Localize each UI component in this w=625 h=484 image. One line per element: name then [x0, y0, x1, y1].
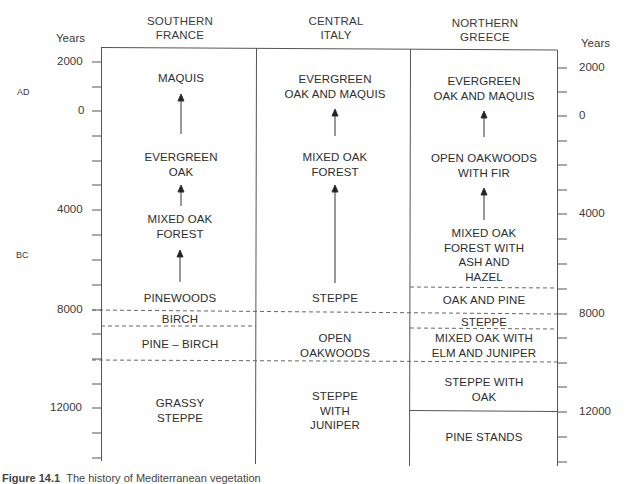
right-axis-title: Years — [581, 37, 610, 49]
zone-label: STEPPE WITH — [411, 375, 557, 390]
zone-label: PINE STANDS — [411, 430, 557, 445]
heading-line: ITALY — [276, 28, 396, 42]
column-divider-1 — [256, 48, 257, 464]
zone-label: EVERGREEN — [411, 74, 557, 89]
right-tick-12000: 12000 — [579, 405, 611, 417]
zone-label: WITH FIR — [411, 166, 557, 181]
zone-greece-pine-stands: PINE STANDS — [411, 430, 557, 445]
arrow-up-icon — [332, 109, 338, 116]
zone-greece-mixed-oak-elm-juniper: MIXED OAK WITH ELM AND JUNIPER — [411, 331, 557, 360]
heading-line: CENTRAL — [276, 14, 396, 28]
zone-label: JUNIPER — [262, 418, 408, 433]
zone-italy-steppe-with-juniper: STEPPE WITH JUNIPER — [262, 389, 408, 433]
boundary-greece-pine-stands — [410, 411, 557, 412]
zone-italy-steppe: STEPPE — [262, 291, 408, 306]
zone-italy-evergreen-oak-maquis: EVERGREEN OAK AND MAQUIS — [262, 72, 408, 101]
column-heading-southern-france: SOUTHERN FRANCE — [120, 14, 240, 42]
zone-label: PINEWOODS — [110, 291, 250, 306]
era-label-bc: BC — [16, 250, 29, 260]
zone-label: STEPPE — [411, 315, 557, 330]
zone-label: EVERGREEN — [262, 72, 408, 87]
zone-greece-mixed-oak-ash-hazel: MIXED OAK FOREST WITH ASH AND HAZEL — [411, 226, 557, 284]
zone-france-pine-birch: PINE – BIRCH — [110, 337, 250, 352]
heading-line: GREECE — [425, 30, 545, 44]
zone-label: ELM AND JUNIPER — [411, 346, 557, 361]
figure-caption: Figure 14.1 The history of Mediterranean… — [2, 472, 261, 484]
zone-label: ASH AND — [411, 255, 557, 270]
zone-greece-steppe: STEPPE — [411, 315, 557, 330]
arrow-up-icon — [178, 94, 184, 101]
zone-label: OPEN OAKWOODS — [411, 151, 557, 166]
zone-label: OAK AND PINE — [411, 293, 557, 308]
left-tick-0: 0 — [78, 104, 84, 116]
arrow-up-icon — [332, 185, 338, 192]
left-axis-ticks — [92, 62, 101, 458]
arrow-up-icon — [481, 188, 487, 195]
zone-label: OAK AND MAQUIS — [411, 89, 557, 104]
figure-caption-label: Figure 14.1 — [2, 472, 60, 484]
zone-label: OPEN — [262, 331, 408, 346]
left-tick-8000: 8000 — [57, 303, 83, 315]
zone-france-maquis: MAQUIS — [111, 71, 251, 86]
boundary-oak-pine — [410, 287, 557, 288]
zone-label: MIXED OAK — [411, 226, 557, 241]
zone-label: EVERGREEN — [111, 150, 251, 165]
zone-greece-oak-and-pine: OAK AND PINE — [411, 293, 557, 308]
heading-line: FRANCE — [120, 28, 240, 42]
zone-label: OAK AND MAQUIS — [262, 87, 408, 102]
column-heading-central-italy: CENTRAL ITALY — [276, 14, 396, 42]
column-heading-northern-greece: NORTHERN GREECE — [425, 16, 545, 44]
right-tick-0: 0 — [579, 109, 585, 121]
zone-label: STEPPE — [262, 291, 408, 306]
zone-label: STEPPE — [110, 411, 250, 426]
left-tick-12000: 12000 — [50, 401, 82, 413]
heading-line: NORTHERN — [425, 16, 545, 30]
zone-label: STEPPE — [262, 389, 408, 404]
zone-label: GRASSY — [110, 396, 250, 411]
right-axis-ticks — [557, 68, 567, 462]
boundary-pine-birch — [92, 360, 557, 362]
zone-france-grassy-steppe: GRASSY STEPPE — [110, 396, 250, 425]
left-axis-title: Years — [56, 32, 85, 44]
zone-label: FOREST WITH — [411, 241, 557, 256]
era-label-ad: AD — [17, 87, 30, 97]
zone-italy-open-oakwoods: OPEN OAKWOODS — [262, 331, 408, 360]
heading-line: SOUTHERN — [120, 14, 240, 28]
left-tick-2000: 2000 — [57, 55, 83, 67]
zone-label: OAK — [411, 390, 557, 405]
zone-greece-steppe-with-oak: STEPPE WITH OAK — [411, 375, 557, 404]
zone-label: HAZEL — [411, 270, 557, 285]
zone-label: MIXED OAK — [110, 212, 250, 227]
frame-top-line — [101, 48, 557, 51]
zone-label: MIXED OAK — [262, 150, 408, 165]
arrow-up-icon — [481, 111, 487, 118]
zone-label: BIRCH — [110, 312, 250, 327]
zone-france-evergreen-oak: EVERGREEN OAK — [111, 150, 251, 179]
zone-italy-mixed-oak-forest: MIXED OAK FOREST — [262, 150, 408, 179]
left-tick-4000: 4000 — [57, 203, 83, 215]
zone-greece-evergreen-oak-maquis: EVERGREEN OAK AND MAQUIS — [411, 74, 557, 103]
right-tick-4000: 4000 — [579, 207, 605, 219]
arrow-up-icon — [177, 250, 183, 257]
zone-label: MAQUIS — [111, 71, 251, 86]
zone-france-birch: BIRCH — [110, 312, 250, 327]
right-tick-2000: 2000 — [579, 61, 605, 73]
zone-france-pinewoods: PINEWOODS — [110, 291, 250, 306]
zone-label: FOREST — [110, 227, 250, 242]
zone-label: MIXED OAK WITH — [411, 331, 557, 346]
right-tick-8000: 8000 — [579, 307, 605, 319]
zone-label: PINE – BIRCH — [110, 337, 250, 352]
zone-france-mixed-oak-forest: MIXED OAK FOREST — [110, 212, 250, 241]
arrow-up-icon — [178, 185, 184, 192]
zone-greece-open-oakwoods-with-fir: OPEN OAKWOODS WITH FIR — [411, 151, 557, 180]
zone-label: OAKWOODS — [262, 346, 408, 361]
zone-label: FOREST — [262, 165, 408, 180]
zone-label: OAK — [111, 165, 251, 180]
figure-caption-text: The history of Mediterranean vegetation — [66, 472, 260, 484]
zone-label: WITH — [262, 404, 408, 419]
